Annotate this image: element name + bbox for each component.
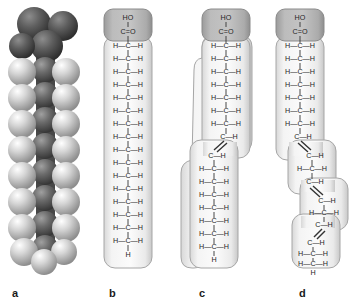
svg-text:H—C—H: H—C—H [285,93,315,102]
svg-text:H—C—H: H—C—H [199,229,229,238]
panel-b-saturated-fatty-acid: HO C=O H—C—H H—C—H H—C—H H—C—H H—C—H H—C… [90,0,180,303]
panel-c-label: c [199,288,205,299]
svg-text:H—C—H: H—C—H [113,210,143,219]
svg-text:H—C—H: H—C—H [199,203,229,212]
svg-text:H—C—H: H—C—H [199,190,229,199]
svg-text:H—C—H: H—C—H [285,41,315,50]
terminal-hydrogen: H [125,250,130,259]
svg-text:C—H: C—H [220,132,238,141]
svg-text:H—C—H: H—C—H [211,41,241,50]
svg-text:H—C—H: H—C—H [113,236,143,245]
panel-d-label: d [299,288,306,299]
svg-text:H—C—H: H—C—H [297,164,327,173]
svg-text:H—C—H: H—C—H [113,93,143,102]
svg-text:H—C—H: H—C—H [113,223,143,232]
svg-text:H—C—H: H—C—H [285,80,315,89]
svg-text:H—C—H: H—C—H [113,184,143,193]
svg-text:H—C—H: H—C—H [211,80,241,89]
svg-text:C—H: C—H [307,238,325,247]
hydrocarbon-chain-spheres [8,57,80,275]
svg-text:H—C—H: H—C—H [113,119,143,128]
svg-text:H—C—H: H—C—H [298,259,328,268]
fatty-acid-figure: a [0,0,364,303]
svg-text:H—C—H: H—C—H [113,41,143,50]
svg-text:H—C—H: H—C—H [113,158,143,167]
svg-text:H—C—H: H—C—H [309,208,339,217]
ch2-rows-upper: H—C—H H—C—H H—C—H H—C—H H—C—H H—C—H H—C—… [211,41,241,128]
svg-text:C—H: C—H [306,151,324,160]
panel-c-monounsaturated-fatty-acid: HO C=O H—C—H H—C—H H—C—H H—C—H H—C—H H—C… [180,0,270,303]
hydroxyl-label: HO [295,13,306,22]
saturated-chain-graphic: HO C=O H—C—H H—C—H H—C—H H—C—H H—C—H H—C… [90,0,180,280]
svg-text:H—C—H: H—C—H [298,249,328,258]
svg-text:H—C—H: H—C—H [211,119,241,128]
carboxyl-head-spheres [9,7,78,62]
svg-text:C—H: C—H [306,177,324,186]
svg-text:H—C—H: H—C—H [113,132,143,141]
svg-text:H—C—H: H—C—H [113,197,143,206]
svg-text:C—H: C—H [294,132,312,141]
hydroxyl-label: HO [123,13,134,22]
chain-atom-labels: HO C=O H—C—H H—C—H H—C—H H—C—H H—C—H H—C… [113,13,143,259]
panel-d-polyunsaturated-fatty-acid: HO C=O H—C—H H—C—H H—C—H H—C—H H—C—H H—C… [270,0,364,303]
carbonyl-label: C=O [121,27,136,36]
svg-text:H—C—H: H—C—H [285,54,315,63]
ch2-rows-segment-4: H—C—H H—C—H [298,247,328,268]
svg-text:H—C—H: H—C—H [199,164,229,173]
terminal-hydrogen: H [310,268,315,277]
svg-text:H—C—H: H—C—H [199,242,229,251]
carbonyl-label: C=O [293,27,308,36]
svg-text:C—H: C—H [315,220,333,229]
svg-text:C—H: C—H [318,196,336,205]
monounsaturated-chain-graphic: HO C=O H—C—H H—C—H H—C—H H—C—H H—C—H H—C… [180,0,270,280]
svg-text:H—C—H: H—C—H [285,106,315,115]
svg-text:C—H: C—H [208,151,226,160]
ch2-rows-segment-1: H—C—H H—C—H H—C—H H—C—H H—C—H H—C—H H—C—… [285,41,315,128]
space-filling-model-graphic [0,0,90,275]
svg-text:H—C—H: H—C—H [113,54,143,63]
svg-text:H—C—H: H—C—H [113,106,143,115]
svg-text:H—C—H: H—C—H [211,67,241,76]
svg-text:H—C—H: H—C—H [211,93,241,102]
svg-text:H—C—H: H—C—H [285,119,315,128]
svg-text:H—C—H: H—C—H [285,67,315,76]
svg-text:H—C—H: H—C—H [199,177,229,186]
hydroxyl-label: HO [221,13,232,22]
carbonyl-label: C=O [219,27,234,36]
panel-a-space-filling-model: a [0,0,90,303]
svg-text:H—C—H: H—C—H [113,67,143,76]
svg-text:H—C—H: H—C—H [211,54,241,63]
terminal-hydrogen: H [211,255,216,264]
svg-text:H—C—H: H—C—H [113,145,143,154]
svg-text:H—C—H: H—C—H [113,171,143,180]
svg-text:H—C—H: H—C—H [211,106,241,115]
polyunsaturated-chain-graphic: HO C=O H—C—H H—C—H H—C—H H—C—H H—C—H H—C… [270,0,364,280]
panel-a-label: a [12,288,18,299]
svg-text:H—C—H: H—C—H [113,80,143,89]
panel-b-label: b [109,288,116,299]
svg-text:H—C—H: H—C—H [199,216,229,225]
